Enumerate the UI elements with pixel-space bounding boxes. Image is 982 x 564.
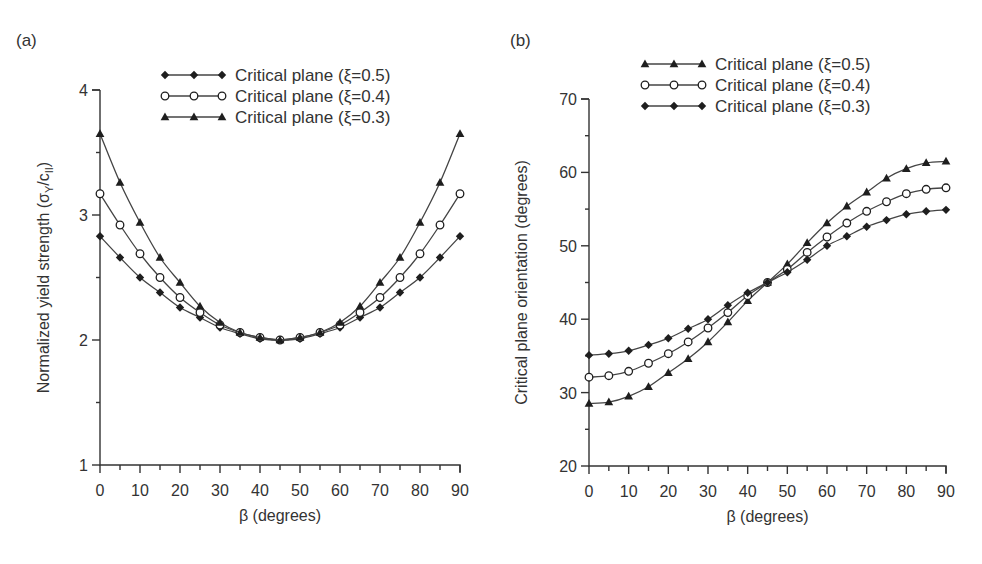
- data-point-circle-marker-icon: [684, 338, 692, 346]
- data-point-circle-marker-icon: [585, 373, 593, 381]
- panel-b-label: (b): [510, 31, 531, 50]
- data-point-circle-marker-icon: [883, 198, 891, 206]
- legend-label: Critical plane (ξ=0.4): [235, 87, 390, 106]
- legend-circle-marker-icon: [698, 81, 706, 89]
- data-point-circle-marker-icon: [116, 221, 124, 229]
- legend-triangle-marker-icon: [218, 112, 227, 120]
- data-point-triangle-marker-icon: [136, 218, 145, 226]
- x-tick-label: 70: [858, 483, 876, 500]
- y-tick-label: 50: [559, 238, 577, 255]
- panel-b-orientation-chart: (b) 2030405060700102030405060708090 Crit…: [510, 31, 955, 525]
- legend-triangle-marker-icon: [161, 112, 170, 120]
- data-point-circle-marker-icon: [416, 250, 424, 258]
- data-point-circle-marker-icon: [156, 274, 164, 282]
- data-point-triangle-marker-icon: [96, 129, 105, 137]
- x-tick-label: 20: [171, 482, 189, 499]
- y-tick-label: 3: [79, 207, 88, 224]
- x-tick-label: 80: [411, 482, 429, 499]
- data-point-circle-marker-icon: [942, 184, 950, 192]
- x-tick-label: 80: [897, 483, 915, 500]
- data-point-circle-marker-icon: [176, 294, 184, 302]
- x-tick-label: 20: [659, 483, 677, 500]
- panel-a-legend: Critical plane (ξ=0.5)Critical plane (ξ=…: [161, 66, 391, 127]
- legend-label: Critical plane (ξ=0.5): [235, 66, 390, 85]
- legend-item: Critical plane (ξ=0.3): [161, 108, 391, 127]
- data-point-diamond-marker-icon: [902, 210, 910, 218]
- data-point-triangle-marker-icon: [436, 178, 445, 186]
- panel-a-series: [96, 129, 465, 344]
- data-point-circle-marker-icon: [645, 359, 653, 367]
- data-point-circle-marker-icon: [456, 190, 464, 198]
- y-tick-label: 70: [559, 91, 577, 108]
- data-point-triangle-marker-icon: [942, 157, 951, 165]
- panel-a-axes: 12340102030405060708090: [79, 82, 469, 499]
- data-point-circle-marker-icon: [136, 250, 144, 258]
- x-tick-label: 0: [585, 483, 594, 500]
- data-point-circle-marker-icon: [625, 368, 633, 376]
- data-point-triangle-marker-icon: [456, 129, 465, 137]
- data-point-triangle-marker-icon: [684, 354, 693, 362]
- y-tick-label: 20: [559, 458, 577, 475]
- legend-triangle-marker-icon: [190, 112, 199, 120]
- legend-label: Critical plane (ξ=0.3): [235, 108, 390, 127]
- data-point-circle-marker-icon: [803, 249, 811, 257]
- data-point-triangle-marker-icon: [156, 253, 165, 261]
- data-point-triangle-marker-icon: [862, 188, 871, 196]
- x-tick-label: 0: [96, 482, 105, 499]
- data-point-circle-marker-icon: [724, 309, 732, 317]
- data-point-circle-marker-icon: [356, 309, 364, 317]
- legend-diamond-marker-icon: [698, 102, 706, 110]
- x-tick-label: 30: [211, 482, 229, 499]
- data-point-diamond-marker-icon: [605, 349, 613, 357]
- panel-a-axis-lines: [100, 90, 460, 472]
- data-point-circle-marker-icon: [96, 190, 104, 198]
- legend-circle-marker-icon: [641, 81, 649, 89]
- panel-a-series-triangle: [96, 129, 465, 343]
- data-point-diamond-marker-icon: [724, 301, 732, 309]
- data-point-diamond-marker-icon: [882, 216, 890, 224]
- x-tick-label: 90: [937, 483, 955, 500]
- y-tick-label: 60: [559, 164, 577, 181]
- data-point-diamond-marker-icon: [803, 256, 811, 264]
- panel-b-legend: Critical plane (ξ=0.5)Critical plane (ξ=…: [641, 55, 871, 116]
- legend-diamond-marker-icon: [190, 71, 198, 79]
- legend-triangle-marker-icon: [641, 59, 650, 67]
- x-tick-label: 30: [699, 483, 717, 500]
- legend-circle-marker-icon: [161, 92, 169, 100]
- panel-b-series-diamond: [585, 206, 950, 360]
- legend-label: Critical plane (ξ=0.4): [715, 76, 870, 95]
- data-point-diamond-marker-icon: [624, 347, 632, 355]
- data-point-triangle-marker-icon: [416, 218, 425, 226]
- data-point-diamond-marker-icon: [823, 242, 831, 250]
- data-point-circle-marker-icon: [605, 372, 613, 380]
- data-point-diamond-marker-icon: [644, 341, 652, 349]
- data-point-triangle-marker-icon: [644, 382, 653, 390]
- data-point-diamond-marker-icon: [664, 334, 672, 342]
- data-point-triangle-marker-icon: [396, 253, 405, 261]
- data-point-diamond-marker-icon: [684, 325, 692, 333]
- data-point-circle-marker-icon: [843, 219, 851, 227]
- panel-b-y-axis-title: Critical plane orientation (degrees): [513, 160, 530, 405]
- data-point-diamond-marker-icon: [922, 207, 930, 215]
- x-tick-label: 60: [331, 482, 349, 499]
- legend-triangle-marker-icon: [670, 59, 679, 67]
- legend-diamond-marker-icon: [641, 102, 649, 110]
- x-tick-label: 40: [739, 483, 757, 500]
- data-point-diamond-marker-icon: [843, 232, 851, 240]
- panel-a-series-circle: [96, 190, 464, 344]
- legend-item: Critical plane (ξ=0.5): [161, 66, 391, 85]
- legend-diamond-marker-icon: [218, 71, 226, 79]
- data-point-circle-marker-icon: [903, 190, 911, 198]
- y-tick-label: 1: [79, 457, 88, 474]
- data-point-circle-marker-icon: [196, 309, 204, 317]
- legend-item: Critical plane (ξ=0.3): [641, 97, 871, 116]
- data-point-circle-marker-icon: [704, 324, 712, 332]
- legend-circle-marker-icon: [190, 92, 198, 100]
- y-tick-label: 4: [79, 82, 88, 99]
- legend-item: Critical plane (ξ=0.4): [641, 76, 870, 95]
- data-point-circle-marker-icon: [665, 350, 673, 358]
- legend-circle-marker-icon: [218, 92, 226, 100]
- series-line: [100, 194, 460, 340]
- legend-triangle-marker-icon: [698, 59, 707, 67]
- panel-a-label: (a): [16, 31, 37, 50]
